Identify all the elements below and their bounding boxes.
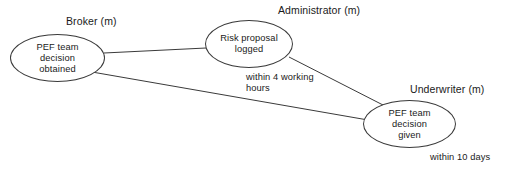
node-label: PEF team decision given xyxy=(388,108,430,141)
edge-obtained-to-given xyxy=(92,72,368,120)
node-risk-proposal-logged[interactable]: Risk proposal logged xyxy=(205,20,293,68)
edge-label-within-10-days: within 10 days xyxy=(430,152,490,163)
node-label: Risk proposal logged xyxy=(220,33,278,55)
edge-obtained-to-logged xyxy=(104,48,206,53)
node-pef-team-decision-given[interactable]: PEF team decision given xyxy=(363,100,456,148)
diagram-canvas: PEF team decision obtained Risk proposal… xyxy=(0,0,509,171)
lane-label-broker: Broker (m) xyxy=(66,15,117,27)
lane-label-underwriter: Underwriter (m) xyxy=(410,83,484,95)
edge-label-within-4-working-hours: within 4 working hours xyxy=(246,72,314,94)
lane-label-administrator: Administrator (m) xyxy=(278,4,360,16)
node-label: PEF team decision obtained xyxy=(36,42,78,75)
node-pef-team-decision-obtained[interactable]: PEF team decision obtained xyxy=(10,34,105,82)
